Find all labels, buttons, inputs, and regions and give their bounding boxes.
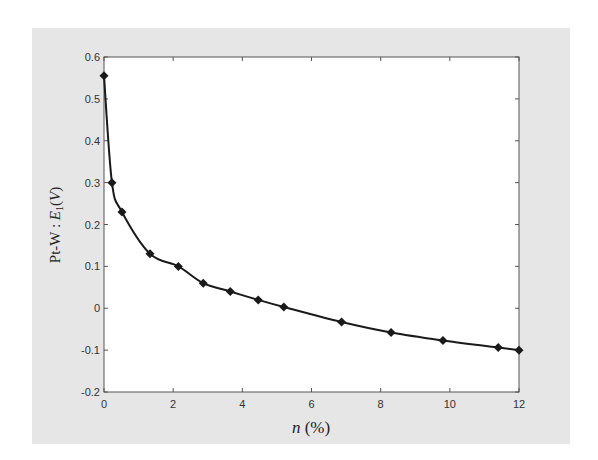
x-tick-label: 12 [513,398,525,410]
y-tick-label: -0.2 [81,386,100,398]
chart-figure: 024681012 -0.2-0.100.10.20.30.40.50.6 n … [0,0,598,460]
y-tick-label: 0.4 [85,135,100,147]
x-tick-label: 0 [101,398,107,410]
y-tick-label: 0.3 [85,177,100,189]
y-tick-label: -0.1 [81,344,100,356]
x-tick-label: 4 [239,398,245,410]
y-tick-label: 0.5 [85,93,100,105]
y-tick-label: 0.1 [85,260,100,272]
x-tick-label: 8 [378,398,384,410]
x-tick-label: 2 [170,398,176,410]
x-tick-label: 10 [444,398,456,410]
x-axis-title: n (%) [292,418,330,437]
x-tick-label: 6 [308,398,314,410]
y-axis-title: Pt-W : E1(V) [47,187,65,263]
y-tick-label: 0.2 [85,219,100,231]
y-tick-label: 0 [94,302,100,314]
y-tick-label: 0.6 [85,51,100,63]
